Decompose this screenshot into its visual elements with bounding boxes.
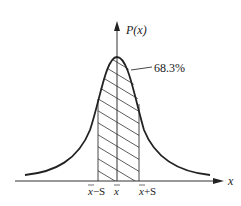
y-axis-arrow-icon (114, 21, 120, 31)
tick-base: x (113, 185, 119, 197)
tick-mean-plus-s: x+S (138, 185, 156, 197)
tick-mean: x (113, 185, 120, 197)
y-axis-label: P(x) (125, 23, 147, 37)
annotation-leader-line (131, 67, 152, 70)
tick-suffix: −S (93, 185, 105, 197)
tick-mean-minus-s: x−S (87, 185, 105, 197)
x-axis-label: x (227, 174, 234, 188)
svg-text:x+S: x+S (138, 185, 156, 197)
normal-distribution-diagram: 68.3% P(x) x x−S x x+S (0, 0, 241, 206)
x-axis-arrow-icon (213, 178, 224, 184)
svg-text:x−S: x−S (87, 185, 105, 197)
shaded-region-hatching (80, 28, 160, 206)
percentage-annotation: 68.3% (154, 61, 185, 75)
tick-suffix: +S (144, 185, 156, 197)
